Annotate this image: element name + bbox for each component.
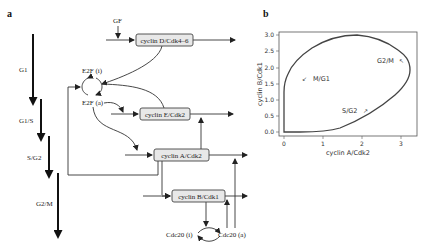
complex-label: cyclin B/Cdk1 [178,193,219,201]
annotation-mg1: M/G1 [313,75,330,83]
panel-a: a G1 G1/S S/G2 G2/M [7,8,247,241]
phase-label-g2m: G2/M [36,200,54,208]
complex-label: cyclin E/Cdk2 [145,111,186,119]
y-tick-label: 3.0 [264,31,274,38]
complex-cyclin-b: cyclin B/Cdk1 [172,190,225,202]
x-tick-label: 1 [321,140,325,147]
cdc20-active-label: Cdc20 (a) [218,231,246,239]
complex-cyclin-e: cyclin E/Cdk2 [140,108,190,120]
panel-b: b 0.0 0.5 1.0 1.5 2.0 2.5 3.0 cyclin B/C… [256,8,417,157]
arrow-icon: ↖ [399,57,404,64]
y-axis-label: cyclin B/Cdk1 [256,62,264,106]
arrow-icon: ↗ [363,107,368,114]
e2f-cycle-left [82,78,88,95]
y-axis: 0.0 0.5 1.0 1.5 2.0 2.5 3.0 [264,31,279,135]
y-tick-label: 0.5 [264,112,274,119]
edge-cycd-e2f [102,46,162,84]
figure-canvas: a G1 G1/S S/G2 G2/M [0,0,430,249]
limit-cycle-curve [284,35,410,132]
x-axis: 0 1 2 3 [282,136,403,147]
x-tick-label: 3 [399,140,403,147]
edge-e2f-cyca [93,107,137,150]
phase-annotations: ↙ M/G1 S/G2 ↗ G2/M ↖ [302,57,404,115]
y-tick-label: 0.0 [264,128,274,135]
y-tick-label: 2.0 [264,64,274,71]
e2f-cycle-right [96,78,102,95]
y-tick-label: 1.5 [264,80,274,87]
complex-cyclin-d: cyclin D/Cdk4–6 [136,34,193,46]
phase-label-g1s: G1/S [19,117,34,125]
e2f-active-label: E2F (a) [82,99,104,107]
annotation-g2m: G2/M [377,57,394,65]
arrow-icon: ↙ [302,75,307,82]
edge-e2f-cyce [104,102,123,112]
edge-cyce-e2f [102,84,164,108]
plot-frame [279,32,417,136]
cdc20-cycle-top [198,228,220,233]
x-tick-label: 2 [360,140,364,147]
phase-label-g1: G1 [19,66,28,74]
cdc20-cycle-bottom [198,236,220,241]
complex-cyclin-a: cyclin A/Cdk2 [154,149,209,161]
panel-a-label: a [7,8,12,19]
panel-b-label: b [263,8,269,19]
cdc20-inactive-label: Cdc20 (i) [166,231,193,239]
phase-label-sg2: S/G2 [27,154,42,162]
y-tick-label: 1.0 [264,96,274,103]
y-tick-label: 2.5 [264,47,274,54]
e2f-inactive-label: E2F (i) [82,67,103,75]
gf-label: GF [113,17,122,25]
network-edges [68,26,247,241]
complex-label: cyclin D/Cdk4–6 [140,37,189,45]
annotation-sg2: S/G2 [342,107,358,115]
complex-label: cyclin A/Cdk2 [161,152,202,160]
x-axis-label: cyclin A/Cdk2 [326,149,370,157]
x-tick-label: 0 [282,140,286,147]
